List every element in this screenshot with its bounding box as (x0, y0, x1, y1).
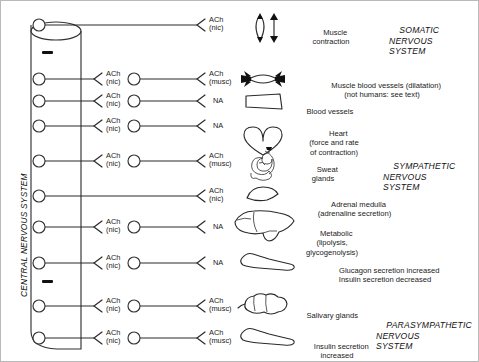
pancreas-icon-2 (241, 329, 294, 346)
cord-separator-marks (42, 51, 53, 283)
transmitter-preganglionic-liver: ACh(nic) (106, 218, 120, 235)
transmitter-preganglionic-blood-vessels: ACh(nic) (106, 92, 120, 109)
transmitter-preganglionic-pancreas-para: ACh(nic) (106, 329, 120, 346)
pancreas-icon (241, 254, 294, 271)
organ-label-sweat-glands: Sweatglands (298, 156, 348, 193)
transmitter-terminal-somatic-muscle: ACh(nic) (209, 16, 223, 33)
organ-label-pancreas-sympathetic: Glucagon secretion increasedInsulin secr… (295, 257, 475, 294)
transmitter-terminal-pancreas-para: ACh(musc) (209, 329, 232, 346)
transmitter-preganglionic-sweat-glands: ACh(nic) (106, 152, 120, 169)
transmitter-preganglionic-muscle-blood-vessels: ACh(nic) (106, 70, 120, 87)
adrenal-medulla-icon (247, 187, 278, 201)
dilated-vessel-icon (241, 71, 285, 87)
skeletal-muscle-icon (256, 13, 278, 43)
transmitter-terminal-sweat-glands: ACh(musc) (209, 152, 232, 169)
organ-label-pancreas-parasympathetic: Insulin secretionincreased (294, 333, 380, 362)
transmitter-terminal-liver: NA (213, 223, 223, 231)
heart-icon (244, 127, 282, 155)
system-label-somatic: SOMATICNERVOUSSYSTEM (389, 15, 439, 67)
transmitter-terminal-salivary: ACh(musc) (209, 297, 232, 314)
transmitter-terminal-heart: NA (213, 122, 223, 130)
liver-icon (235, 211, 294, 241)
transmitter-terminal-adrenal-medulla: ACh(nic) (209, 187, 223, 204)
system-label-sympathetic: SYMPATHETICNERVOUSSYSTEM (383, 151, 455, 203)
transmitter-terminal-blood-vessels: NA (213, 97, 223, 105)
organ-label-somatic-muscle: Musclecontraction (295, 19, 367, 56)
diagram-canvas: .ln{stroke:#2a2a2a;stroke-width:1.1;fill… (0, 0, 479, 362)
transmitter-terminal-pancreas-sym: NA (213, 259, 223, 267)
transmitter-preganglionic-heart: ACh(nic) (106, 117, 120, 134)
transmitter-preganglionic-pancreas-sym: ACh(nic) (106, 254, 120, 271)
system-label-parasympathetic: PARASYMPATHETICNERVOUSSYSTEM (376, 310, 472, 362)
transmitter-terminal-muscle-blood-vessels: ACh(musc) (209, 70, 232, 87)
organ-label-salivary-glands: Salivary glands (298, 302, 358, 330)
transmitter-preganglionic-salivary: ACh(nic) (106, 297, 120, 314)
blood-vessel-icon (246, 94, 282, 109)
row-adrenal-medulla-path (33, 190, 205, 202)
row-somatic-muscle-path (33, 19, 205, 31)
cns-label: CENTRAL NERVOUS SYSTEM (19, 173, 29, 297)
salivary-gland-icon (238, 294, 287, 314)
sweat-gland-icon (251, 147, 274, 180)
